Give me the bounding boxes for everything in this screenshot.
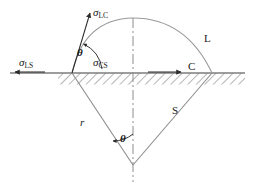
substrate-hatch-fill <box>58 74 245 85</box>
label-phase-l: L <box>204 33 211 44</box>
label-theta-apex-angle: θ <box>120 133 126 144</box>
sigma-ls-subscript: LS <box>24 61 33 70</box>
figure-container: σLC σLS σCS θ θ r L C S <box>0 0 256 191</box>
label-radius-r: r <box>80 117 84 128</box>
label-sigma-lc: σLC <box>93 7 108 19</box>
label-sigma-cs: σCS <box>93 57 108 69</box>
label-theta-contact-angle: θ <box>77 47 83 58</box>
label-phase-c: C <box>188 61 195 72</box>
sigma-lc-subscript: LC <box>98 11 108 20</box>
sigma-cs-subscript: CS <box>98 61 107 70</box>
substrate-hatch-region <box>58 74 245 85</box>
wedge-right-edge <box>133 73 212 165</box>
label-sigma-ls: σLS <box>19 57 33 69</box>
contact-angle-diagram <box>0 0 256 191</box>
label-phase-s: S <box>172 105 178 116</box>
sigma-lc-vector-arrow <box>72 13 90 73</box>
